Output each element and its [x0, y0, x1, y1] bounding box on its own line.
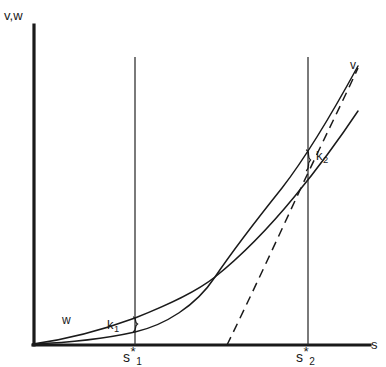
curve-label-v: v [350, 58, 356, 72]
tangent-dashed-line [227, 68, 358, 345]
x-tick-s2-sub: 2 [309, 356, 315, 367]
x-tick-s1-sub: 1 [136, 356, 142, 367]
x-tick-s2-base: s [296, 349, 303, 365]
x-tick-s1-base: s [123, 349, 130, 365]
curve-label-w: w [62, 313, 71, 327]
curve-v [33, 66, 358, 344]
x-axis-label: s [371, 337, 378, 352]
bracket-label-k2: k2 [316, 148, 328, 165]
x-tick-s2-star: * [303, 344, 309, 359]
figure-canvas [0, 0, 386, 367]
bracket-label-k1: k1 [107, 317, 119, 334]
bracket-label-k2-sub: 2 [323, 155, 329, 165]
curve-w [33, 111, 358, 344]
x-tick-label-s-star-2: s*2 [296, 344, 315, 367]
figure-container: v,w s w v k1 k2 s*1 s*2 [0, 0, 386, 367]
bracket-label-k1-sub: 1 [114, 324, 120, 334]
bracket-label-k1-base: k [107, 317, 114, 332]
bracket-label-k2-base: k [316, 148, 323, 163]
y-axis-label: v,w [4, 8, 23, 23]
x-tick-s1-star: * [130, 344, 136, 359]
x-tick-label-s-star-1: s*1 [123, 344, 142, 367]
